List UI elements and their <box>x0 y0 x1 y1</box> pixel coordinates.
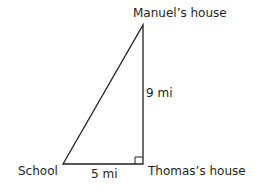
school-label: School <box>18 164 58 178</box>
thomas-house-label: Thomas’s house <box>148 164 246 178</box>
triangle-outline <box>63 25 143 164</box>
triangle-figure <box>0 0 255 189</box>
side-vertical-label: 9 mi <box>146 86 172 100</box>
right-angle-marker <box>135 157 143 164</box>
manuels-house-label: Manuel’s house <box>133 6 227 20</box>
side-horizontal-label: 5 mi <box>91 167 117 181</box>
